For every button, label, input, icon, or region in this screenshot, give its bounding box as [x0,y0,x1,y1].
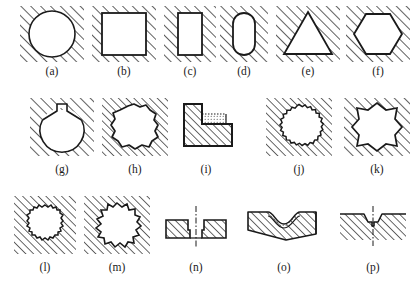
triangle-hole-icon [276,6,340,62]
eight-point-star-hole-icon [344,98,410,156]
specimen-d [220,6,268,62]
caption-b: (b) [92,66,156,78]
specimen-f [346,6,410,62]
rounded-rectangle-hole-icon [220,6,268,62]
caption-l: (l) [14,262,76,274]
caption-p: (p) [338,262,408,274]
specimen-a [20,6,84,62]
caption-a: (a) [20,66,84,78]
caption-d: (d) [220,66,268,78]
rectangle-hole-icon [164,6,216,62]
specimen-o [246,200,322,250]
specimen-l [14,196,76,254]
caption-e: (e) [276,66,340,78]
specimen-b [92,6,156,62]
caption-f: (f) [346,66,410,78]
hexagon-hole-icon [346,6,410,62]
circle-with-keyway-hole-icon [30,98,94,156]
specimen-c [164,6,216,62]
technical-figure: (a) (b) (c) (d) (e) [0,0,416,297]
irregular-polygon-hole-icon [102,98,168,156]
fine-serrated-circular-hole-icon [266,98,332,156]
caption-i: (i) [176,164,236,176]
symmetric-groove-section-icon [160,198,232,254]
specimen-h [102,98,168,156]
specimen-j [266,98,332,156]
caption-h: (h) [102,164,168,176]
circle-hole-icon [20,6,84,62]
specimen-e [276,6,340,62]
caption-c: (c) [164,66,216,78]
specimen-n [160,198,232,254]
caption-k: (k) [344,164,410,176]
specimen-k [344,98,410,156]
l-shaped-section-icon [180,100,240,152]
curved-groove-section-icon [246,200,322,250]
gear-tooth-hole-fine-icon [14,196,76,254]
vee-notch-section-icon [338,200,408,252]
caption-g: (g) [30,164,94,176]
specimen-g [30,98,94,156]
caption-o: (o) [246,262,322,274]
specimen-i [180,100,240,152]
gear-tooth-hole-coarse-icon [84,196,150,254]
caption-m: (m) [84,262,150,274]
specimen-p [338,200,408,252]
caption-n: (n) [160,262,232,274]
specimen-m [84,196,150,254]
square-hole-icon [92,6,156,62]
caption-j: (j) [266,164,332,176]
